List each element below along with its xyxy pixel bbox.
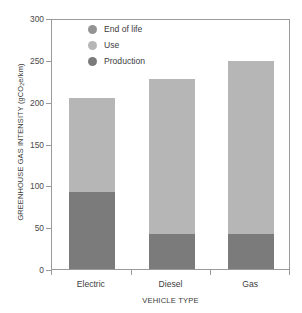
x-tick-label: Electric xyxy=(51,280,131,289)
y-axis-title-tail: e/km) xyxy=(16,63,25,82)
x-tick-mark xyxy=(51,270,52,275)
legend-item[interactable]: End of life xyxy=(88,21,145,37)
legend-label: Use xyxy=(104,41,119,50)
legend-label: Production xyxy=(104,57,145,66)
legend-swatch-icon xyxy=(88,57,97,66)
x-tick-label: Diesel xyxy=(131,280,211,289)
x-tick-mark xyxy=(210,270,211,275)
bar-segment[interactable] xyxy=(228,61,274,234)
legend-label: End of life xyxy=(104,25,142,34)
bar-segment[interactable] xyxy=(228,234,274,269)
y-tick-label: 50 xyxy=(0,224,44,232)
legend-item[interactable]: Use xyxy=(88,37,145,53)
x-tick-mark xyxy=(289,270,290,275)
y-tick-label: 150 xyxy=(0,140,44,148)
x-tick-label: Gas xyxy=(210,280,290,289)
bar-stack[interactable] xyxy=(149,18,195,269)
bar-segment[interactable] xyxy=(69,98,115,193)
bar-segment[interactable] xyxy=(69,192,115,269)
y-axis-title-subscript: 2 xyxy=(19,83,25,86)
legend-swatch-icon xyxy=(88,41,97,50)
bar-segment[interactable] xyxy=(149,234,195,269)
chart-figure: GREENHOUSE GAS INTENSITY (gCO2e/km) 0501… xyxy=(0,0,302,313)
y-tick-label: 200 xyxy=(0,98,44,106)
x-axis-title: VEHICLE TYPE xyxy=(51,297,290,305)
y-tick-label: 0 xyxy=(0,266,44,274)
legend-swatch-icon xyxy=(88,25,97,34)
y-tick-label: 250 xyxy=(0,57,44,65)
x-tick-mark xyxy=(131,270,132,275)
plot-area xyxy=(51,19,290,270)
y-tick-label: 300 xyxy=(0,15,44,23)
legend-item[interactable]: Production xyxy=(88,53,145,69)
chart-legend: End of lifeUseProduction xyxy=(88,21,145,69)
bar-segment[interactable] xyxy=(149,79,195,234)
y-tick-label: 100 xyxy=(0,182,44,190)
bar-stack[interactable] xyxy=(228,18,274,269)
